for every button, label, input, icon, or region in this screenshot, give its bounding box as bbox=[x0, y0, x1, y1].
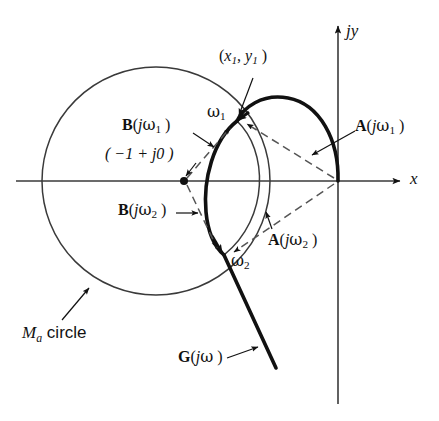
omega1-sub: 1 bbox=[220, 110, 226, 122]
omega1-symbol: ω bbox=[207, 102, 220, 121]
label-g-jw: G(jω ) bbox=[178, 349, 223, 365]
leader-a-jw2 bbox=[266, 212, 272, 229]
label-b-jw1: B(jω1 ) bbox=[122, 117, 170, 136]
label-omega2: ω2 bbox=[231, 253, 250, 272]
inner-loop-curve bbox=[224, 121, 260, 255]
critical-point-dot bbox=[180, 177, 188, 185]
label-axis-jy: jy bbox=[346, 22, 358, 39]
label-critical-point: ( −1 + j0 ) bbox=[105, 146, 174, 162]
leader-b-jw1 bbox=[193, 133, 214, 147]
b-vector-w2-line bbox=[187, 185, 217, 248]
a-jw1-close: ) bbox=[395, 117, 404, 134]
x1y1-close: ) bbox=[258, 47, 267, 64]
label-omega1: ω1 bbox=[207, 104, 226, 123]
ma-circle-m: M bbox=[22, 323, 36, 342]
omega2-sub: 2 bbox=[244, 259, 250, 271]
x1y1-comma: , bbox=[237, 47, 245, 64]
locus-direction-arrows bbox=[212, 112, 249, 253]
g-locus-tail bbox=[224, 255, 276, 368]
label-ma-circle: Ma circle bbox=[22, 324, 87, 344]
a-jw2-omega: ω bbox=[289, 230, 302, 249]
b-jw1-close: ) bbox=[161, 116, 170, 133]
b-jw1-bold-b: B bbox=[122, 116, 133, 133]
a-jw1-bold-a: A bbox=[355, 117, 367, 134]
b-jw2-close: ) bbox=[157, 201, 166, 218]
a-vector-w1-line bbox=[247, 124, 334, 178]
a-jw2-bold-a: A bbox=[268, 231, 280, 248]
g-jw-omega: ω bbox=[200, 347, 213, 366]
omega2-symbol: ω bbox=[231, 251, 244, 270]
a-jw1-omega: ω bbox=[376, 116, 389, 135]
b-jw2-omega: ω bbox=[138, 200, 151, 219]
b-jw2-bold-b: B bbox=[118, 201, 129, 218]
label-point-x1-y1: (x1, y1 ) bbox=[219, 48, 267, 67]
b-jw1-omega: ω bbox=[142, 115, 155, 134]
a-jw2-close: ) bbox=[308, 231, 317, 248]
g-jw-close: ) bbox=[213, 348, 222, 365]
g-locus-upper-arc bbox=[237, 97, 338, 181]
label-b-jw2: B(jω2 ) bbox=[118, 202, 166, 221]
label-axis-x: x bbox=[410, 170, 418, 187]
ma-circle-word: circle bbox=[42, 323, 86, 342]
g-jw-bold-g: G bbox=[178, 348, 190, 365]
leader-g-jw bbox=[227, 347, 258, 358]
label-a-jw2: A(jω2 ) bbox=[268, 232, 317, 251]
label-a-jw1: A(jω1 ) bbox=[355, 118, 404, 137]
figure-canvas: (x1, y1 ) ω1 B(jω1 ) ( −1 + j0 ) B(jω2 )… bbox=[0, 0, 439, 421]
leader-ma-circle bbox=[62, 288, 89, 320]
